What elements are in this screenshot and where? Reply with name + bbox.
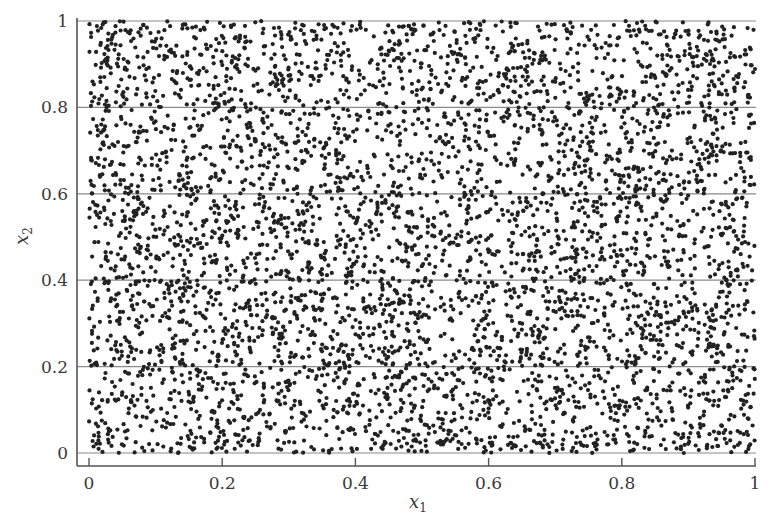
data-points — [87, 19, 757, 455]
scatter-chart: 00.20.40.60.81 00.20.40.60.81 x1 x2 — [0, 0, 772, 527]
y-tick-label: 0.8 — [41, 97, 68, 117]
y-tick-label: 0.4 — [41, 270, 68, 290]
y-axis-label: x2 — [11, 227, 35, 245]
x-tick-label: 1 — [750, 473, 761, 493]
y-axis-ticks: 00.20.40.60.81 — [41, 11, 68, 463]
x-axis-label: x1 — [409, 491, 427, 515]
y-tick-label: 0 — [57, 443, 68, 463]
y-tick-label: 0.6 — [41, 184, 68, 204]
y-tick-label: 0.2 — [41, 357, 68, 377]
axes — [77, 18, 756, 466]
x-tick-label: 0.4 — [342, 473, 369, 493]
y-tick-label: 1 — [57, 11, 68, 31]
x-axis-ticks: 00.20.40.60.81 — [84, 458, 761, 493]
x-tick-label: 0.6 — [475, 473, 502, 493]
x-tick-label: 0 — [84, 473, 95, 493]
x-tick-label: 0.8 — [608, 473, 635, 493]
x-tick-label: 0.2 — [209, 473, 236, 493]
